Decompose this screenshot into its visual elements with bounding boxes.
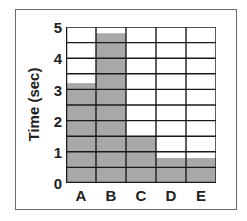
bar-c (126, 136, 156, 183)
y-axis-label: Time (sec) (25, 50, 42, 160)
y-tick-3: 3 (48, 82, 62, 99)
bar-b (96, 33, 126, 183)
bar-chart (66, 27, 216, 183)
x-tick-a: A (66, 187, 96, 204)
x-tick-c: C (126, 187, 156, 204)
y-tick-0: 0 (48, 175, 62, 192)
y-tick-2: 2 (48, 113, 62, 130)
y-tick-1: 1 (48, 144, 62, 161)
bar-e (186, 158, 216, 183)
y-tick-4: 4 (48, 50, 62, 67)
plot-area (66, 27, 216, 183)
x-tick-e: E (186, 187, 216, 204)
y-tick-5: 5 (48, 19, 62, 36)
x-tick-d: D (156, 187, 186, 204)
x-tick-b: B (96, 187, 126, 204)
bar-d (156, 158, 186, 183)
